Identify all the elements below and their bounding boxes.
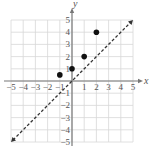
- data-point: [81, 54, 87, 60]
- x-tick-label: 2: [94, 82, 99, 92]
- y-tick-label: −2: [60, 100, 70, 110]
- y-tick-label: 4: [66, 27, 71, 37]
- data-point: [69, 66, 75, 72]
- x-axis-label: x: [143, 75, 149, 86]
- y-tick-label: −4: [60, 125, 70, 135]
- x-axis-arrow-icon: [138, 79, 143, 83]
- y-tick-label: −3: [60, 113, 70, 123]
- x-tick-label: −5: [6, 82, 16, 92]
- coordinate-plane-chart: −5−4−3−2−11234554321−1−2−3−4−5 x y: [0, 0, 153, 151]
- x-tick-label: 4: [119, 82, 124, 92]
- y-tick-label: −1: [60, 88, 70, 98]
- y-tick-label: 5: [66, 15, 71, 25]
- axes: [4, 8, 143, 146]
- x-tick-label: 5: [131, 82, 136, 92]
- y-tick-label: 3: [66, 39, 71, 49]
- x-tick-label: −2: [43, 82, 53, 92]
- y-tick-label: 2: [66, 52, 71, 62]
- y-axis-label: y: [72, 0, 78, 9]
- x-tick-label: −3: [31, 82, 41, 92]
- line-arrow-head-icon: [128, 20, 133, 25]
- x-tick-label: 1: [82, 82, 87, 92]
- data-point: [57, 72, 63, 78]
- x-tick-label: −4: [18, 82, 28, 92]
- data-point: [94, 29, 100, 35]
- line-arrow-tail-icon: [11, 137, 16, 142]
- data-points: [57, 29, 99, 77]
- y-tick-label: −5: [60, 137, 70, 147]
- x-tick-label: 3: [106, 82, 111, 92]
